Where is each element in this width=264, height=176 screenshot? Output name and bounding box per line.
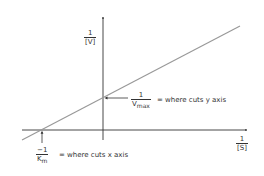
y-intercept-numerator: 1	[138, 91, 144, 99]
y-axis-label-numerator: 1	[87, 29, 93, 37]
x-intercept-text: = where cuts x axis	[59, 151, 128, 159]
x-intercept-fraction: −1 Km	[36, 146, 48, 163]
x-axis-label-numerator: 1	[239, 135, 245, 143]
y-axis-label: 1 [V]	[84, 29, 96, 46]
x-axis-end-dot	[245, 129, 247, 131]
y-intercept-text: = where cuts y axis	[157, 96, 226, 104]
x-axis-label: 1 [S]	[236, 135, 248, 152]
x-axis-label-denominator: [S]	[236, 144, 248, 152]
y-axis-end-dot	[102, 17, 104, 19]
x-intercept-denominator: Km	[36, 155, 48, 163]
y-axis-label-denominator: [V]	[84, 38, 96, 46]
y-intercept-fraction: 1 Vmax	[131, 91, 151, 108]
km-symbol: K	[37, 155, 42, 163]
vmax-subscript: max	[137, 102, 150, 109]
x-intercept-numerator: −1	[36, 146, 48, 154]
regression-line	[22, 26, 240, 140]
x-intercept-arrowhead	[41, 131, 44, 134]
km-subscript: m	[42, 157, 48, 164]
y-intercept-denominator: Vmax	[131, 100, 151, 108]
